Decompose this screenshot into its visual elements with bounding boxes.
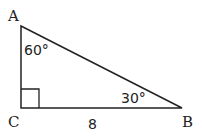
angle-a-label: 60° [24, 42, 49, 58]
right-angle-marker [21, 89, 39, 108]
vertex-label-c: C [8, 113, 19, 131]
triangle-abc [21, 26, 182, 108]
side-cb-length: 8 [88, 116, 97, 132]
triangle-diagram: A C B 60° 30° 8 [0, 0, 202, 136]
vertex-label-a: A [7, 7, 19, 25]
angle-b-label: 30° [121, 90, 146, 106]
vertex-label-b: B [182, 113, 193, 131]
